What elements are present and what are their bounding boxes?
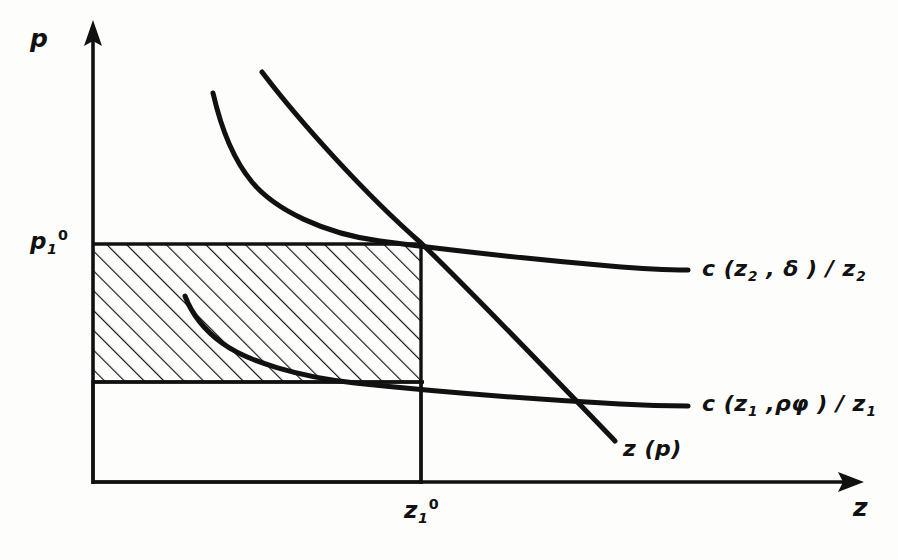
x-tick-subscript: 1 <box>417 510 427 526</box>
figure-canvas: p z p10 z10 c (z2 , δ ) / z2 c (z1 ,ρφ )… <box>0 0 898 560</box>
cost-z1-sub-2: 1 <box>866 403 876 419</box>
y-tick-base: p <box>30 228 46 254</box>
cost-z2-sub-2: 2 <box>856 268 866 284</box>
x-axis <box>93 472 864 492</box>
cost-z2-mid: , δ ) / z <box>758 256 856 281</box>
x-tick-label-z1-0: z10 <box>404 497 439 525</box>
cost-z1-mid: ,ρφ ) / z <box>758 391 866 416</box>
curve-label-cost-z2: c (z2 , δ ) / z2 <box>702 258 866 283</box>
y-tick-superscript: 0 <box>57 227 68 243</box>
curve-label-cost-z1: c (z1 ,ρφ ) / z1 <box>702 393 876 418</box>
x-axis-label: z <box>853 495 868 520</box>
x-tick-base: z <box>404 497 417 523</box>
cost-z1-fn: c (z <box>702 391 748 416</box>
cost-z1-sub-1: 1 <box>748 403 758 419</box>
y-tick-subscript: 1 <box>46 241 56 257</box>
lower-rectangle <box>93 382 421 482</box>
cost-z2-sub-1: 2 <box>748 268 758 284</box>
x-tick-superscript: 0 <box>428 496 439 512</box>
y-axis-label: p <box>30 26 48 51</box>
cost-z2-fn: c (z <box>702 256 748 281</box>
curve-label-demand-zp: z (p) <box>623 438 682 460</box>
y-tick-label-p1-0: p10 <box>30 228 68 256</box>
